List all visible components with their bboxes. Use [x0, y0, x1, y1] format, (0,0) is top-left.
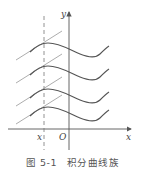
integral-curve	[30, 89, 109, 103]
caption-title: 积分曲线族	[67, 157, 120, 168]
origin-label: O	[59, 132, 67, 142]
y-axis-label: y	[60, 9, 67, 19]
integral-curve	[30, 66, 109, 80]
caption-number: 图 5-1	[26, 157, 57, 168]
x-axis-label: x	[126, 132, 131, 142]
integral-curve-family-diagram: y x O x	[0, 0, 145, 150]
integral-curves	[30, 43, 109, 121]
figure-caption: 图 5-1 积分曲线族	[0, 155, 145, 169]
integral-curve	[30, 107, 109, 121]
point-x-label: x	[37, 132, 42, 142]
integral-curve	[30, 43, 109, 57]
